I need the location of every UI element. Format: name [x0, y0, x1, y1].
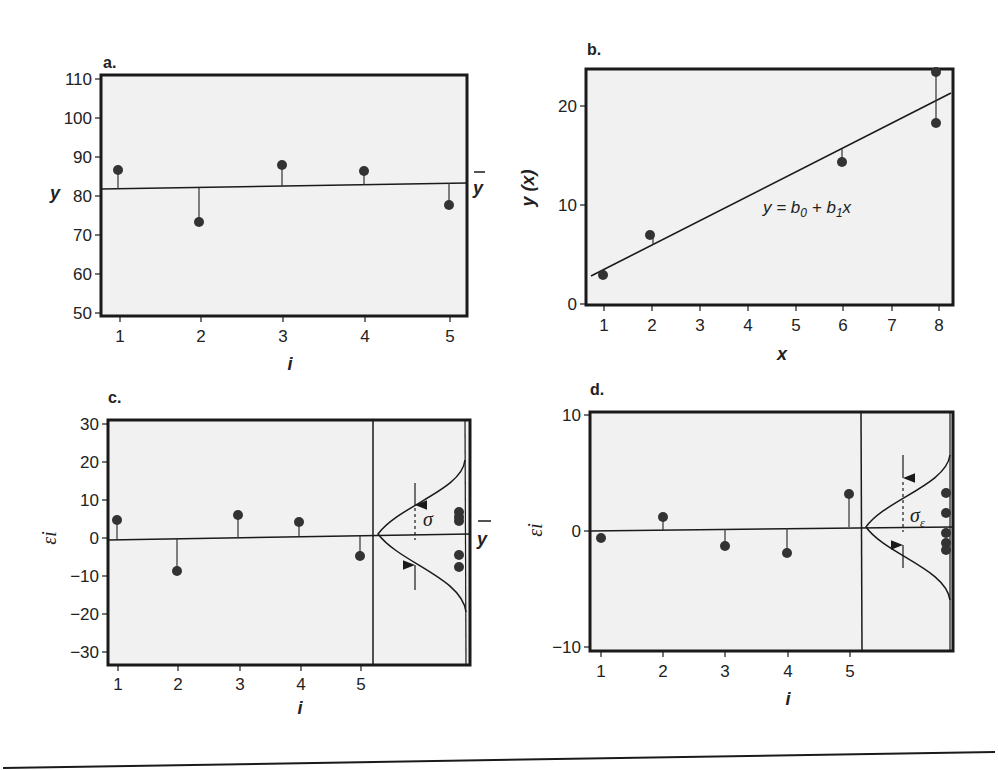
x-tick-label: 5 [791, 316, 800, 335]
panel-d-y-tick-labels: 10 0 −10 [552, 406, 581, 657]
panel-d-y-axis-title: εi [524, 523, 546, 536]
marginal-point [941, 528, 951, 538]
x-tick-label: 3 [278, 327, 287, 346]
y-tick-label: 20 [80, 453, 99, 472]
x-tick-label: 5 [845, 662, 854, 681]
x-tick-label: 5 [356, 675, 365, 694]
x-tick-label: 3 [235, 675, 244, 694]
y-tick-label: 110 [65, 70, 92, 89]
panel-c-mean-label: y [476, 521, 491, 549]
panel-a-label: a. [103, 54, 116, 71]
panel-b-y-axis-title: y (x) [518, 169, 538, 207]
panel-d-label: d. [590, 381, 604, 398]
panel-c-y-tick-labels: 30 20 10 0 −10 −20 −30 [70, 415, 99, 662]
marginal-point [941, 488, 951, 498]
data-point [113, 165, 123, 175]
x-tick-label: 3 [720, 662, 729, 681]
data-point [844, 489, 854, 499]
marginal-point [454, 562, 464, 572]
data-point [277, 160, 287, 170]
data-point [596, 533, 606, 543]
y-tick-label: 0 [572, 522, 581, 541]
y-tick-label: 50 [73, 304, 92, 323]
data-point [837, 157, 847, 167]
data-point [112, 515, 122, 525]
marginal-point [454, 516, 464, 526]
y-tick-label: 0 [90, 529, 99, 548]
panel-c-x-tick-labels: 1 2 3 4 5 [113, 675, 365, 694]
data-point [444, 200, 454, 210]
x-tick-label: 6 [838, 316, 847, 335]
y-tick-label: −10 [552, 638, 581, 657]
panel-d-x-tick-labels: 1 2 3 4 5 [596, 662, 854, 681]
y-tick-label: 80 [73, 187, 92, 206]
x-tick-label: 7 [887, 316, 896, 335]
x-tick-label: 4 [783, 662, 792, 681]
bottom-rule [3, 752, 995, 768]
marginal-point [941, 545, 951, 555]
y-tick-label: −30 [70, 643, 99, 662]
panel-a-y-axis-title: y [49, 183, 61, 203]
panel-b-y-tick-labels: 20 10 0 [558, 97, 577, 314]
data-point [931, 118, 941, 128]
data-point [720, 541, 730, 551]
panel-b-plot-area [586, 69, 953, 305]
panel-d-plot-area [590, 412, 953, 651]
y-tick-label: 10 [80, 491, 99, 510]
x-tick-label: 1 [599, 316, 608, 335]
panel-a-x-axis-title: i [287, 354, 293, 374]
x-tick-label: 1 [113, 675, 122, 694]
y-tick-label: 0 [568, 295, 577, 314]
y-tick-label: 100 [64, 109, 92, 128]
x-tick-label: 1 [596, 662, 605, 681]
data-point [658, 512, 668, 522]
y-tick-label: 60 [73, 265, 92, 284]
panel-b: b. 20 10 0 y (x) 1 2 3 4 5 [518, 41, 953, 364]
panel-a-y-tick-labels: 110 100 90 80 70 60 50 [64, 70, 92, 323]
x-tick-label: 4 [743, 316, 752, 335]
panel-a-x-tick-labels: 1 2 3 4 5 [115, 327, 454, 346]
panel-b-x-axis-title: x [776, 344, 788, 364]
data-point [782, 548, 792, 558]
x-tick-label: 5 [445, 327, 454, 346]
data-point [355, 551, 365, 561]
x-tick-label: 2 [647, 316, 656, 335]
panel-c-y-axis-title: εi [38, 531, 60, 544]
y-tick-label: 20 [558, 97, 577, 116]
x-tick-label: 2 [658, 662, 667, 681]
x-tick-label: 8 [934, 316, 943, 335]
y-tick-label: −10 [70, 567, 99, 586]
svg-text:σ: σ [423, 508, 434, 530]
x-tick-label: 2 [196, 327, 205, 346]
y-tick-label: −20 [70, 605, 99, 624]
data-point [645, 230, 655, 240]
y-tick-label: 10 [562, 406, 581, 425]
panel-c-x-axis-title: i [297, 698, 303, 718]
figure-canvas: a. 110 100 90 80 70 60 50 y [0, 0, 998, 770]
y-tick-label: 30 [80, 415, 99, 434]
panel-a: a. 110 100 90 80 70 60 50 y [49, 54, 485, 374]
panel-d-x-axis-title: i [785, 689, 791, 709]
data-point [172, 566, 182, 576]
svg-text:y: y [476, 529, 488, 549]
data-point [359, 166, 369, 176]
panel-c-label: c. [108, 389, 121, 406]
y-tick-label: 10 [558, 196, 577, 215]
x-tick-label: 4 [296, 675, 305, 694]
panel-b-label: b. [587, 41, 601, 58]
data-point [931, 67, 941, 77]
panel-c-plot-area [108, 420, 470, 665]
svg-text:y: y [472, 178, 484, 198]
y-tick-label: 90 [73, 148, 92, 167]
data-point [598, 270, 608, 280]
panel-a-plot-area [101, 75, 467, 316]
x-tick-label: 2 [173, 675, 182, 694]
data-point [233, 510, 243, 520]
x-tick-label: 4 [360, 327, 369, 346]
panel-d-divider [861, 412, 862, 651]
panel-b-x-tick-labels: 1 2 3 4 5 6 7 8 [599, 316, 943, 335]
y-tick-label: 70 [73, 226, 92, 245]
data-point [294, 517, 304, 527]
data-point [194, 217, 204, 227]
panel-d: d. 10 0 −10 εi 1 2 3 4 5 i [524, 381, 953, 709]
